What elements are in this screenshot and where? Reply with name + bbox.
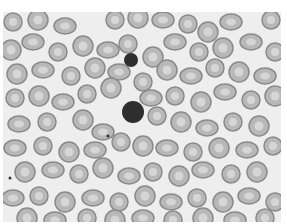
red-blood-cell bbox=[110, 193, 128, 211]
red-blood-cell bbox=[106, 12, 124, 29]
red-blood-cell bbox=[84, 142, 106, 158]
red-blood-cell bbox=[28, 12, 48, 30]
stained-cell bbox=[122, 101, 144, 123]
red-blood-cell bbox=[30, 187, 48, 205]
red-blood-cell bbox=[184, 143, 202, 161]
red-blood-cell bbox=[164, 211, 182, 222]
red-blood-cell bbox=[134, 73, 152, 91]
red-blood-cell bbox=[85, 58, 105, 78]
red-blood-cell bbox=[112, 133, 130, 151]
red-blood-cell bbox=[179, 15, 197, 33]
red-blood-cell bbox=[198, 22, 218, 42]
stained-cell bbox=[124, 53, 138, 67]
red-blood-cell bbox=[188, 189, 206, 207]
red-blood-cell bbox=[152, 12, 174, 28]
red-blood-cell bbox=[3, 190, 24, 206]
red-blood-cell bbox=[4, 140, 26, 156]
red-blood-cell bbox=[55, 192, 75, 212]
red-blood-cell bbox=[132, 210, 154, 222]
red-blood-cell bbox=[213, 38, 233, 58]
red-blood-cell bbox=[240, 34, 262, 50]
red-blood-cell bbox=[22, 34, 44, 50]
red-blood-cell bbox=[119, 35, 137, 53]
red-blood-cell bbox=[34, 137, 52, 155]
red-blood-cell bbox=[148, 107, 166, 125]
red-blood-cell bbox=[105, 210, 125, 222]
red-blood-cell bbox=[262, 12, 280, 29]
red-blood-cell bbox=[238, 188, 260, 204]
red-blood-cell bbox=[229, 62, 249, 82]
red-blood-cell bbox=[190, 43, 208, 61]
red-blood-cell bbox=[97, 42, 119, 58]
red-blood-cell bbox=[42, 162, 64, 178]
red-blood-cell bbox=[93, 158, 113, 178]
red-blood-cell bbox=[73, 110, 93, 130]
red-blood-cell bbox=[191, 92, 211, 112]
red-blood-cell bbox=[193, 208, 213, 222]
red-blood-cell bbox=[206, 59, 224, 77]
red-blood-cell bbox=[164, 34, 186, 50]
red-blood-cell bbox=[224, 113, 242, 131]
red-blood-cell bbox=[236, 142, 258, 158]
red-blood-cell bbox=[52, 94, 74, 110]
red-blood-cell bbox=[265, 86, 281, 106]
red-blood-cell bbox=[118, 168, 140, 184]
red-blood-cell bbox=[266, 43, 281, 61]
red-blood-cell bbox=[62, 67, 80, 85]
red-blood-cell bbox=[73, 36, 93, 56]
red-blood-cell bbox=[224, 212, 246, 222]
red-blood-cell bbox=[214, 84, 236, 100]
red-blood-cell bbox=[166, 87, 184, 105]
red-blood-cell bbox=[78, 85, 96, 103]
red-blood-cell bbox=[254, 68, 276, 84]
red-blood-cell bbox=[135, 186, 155, 206]
red-blood-cell bbox=[101, 78, 121, 98]
red-blood-cell bbox=[209, 138, 229, 158]
red-blood-cell bbox=[59, 142, 79, 162]
red-blood-cell bbox=[70, 165, 88, 183]
red-blood-cell bbox=[8, 116, 30, 132]
red-blood-cell bbox=[92, 124, 114, 140]
red-blood-cell bbox=[4, 13, 22, 31]
red-blood-cell bbox=[49, 43, 67, 61]
micrograph-image bbox=[3, 12, 281, 222]
speck bbox=[107, 135, 110, 138]
red-blood-cell bbox=[7, 64, 27, 84]
red-blood-cell bbox=[17, 208, 37, 222]
red-blood-cell bbox=[220, 14, 242, 30]
red-blood-cell bbox=[242, 91, 260, 109]
red-blood-cell bbox=[38, 113, 56, 131]
red-blood-cell bbox=[196, 120, 218, 136]
red-blood-cell bbox=[3, 40, 21, 60]
red-blood-cell bbox=[192, 162, 214, 178]
red-blood-cell bbox=[266, 193, 281, 211]
red-blood-cell bbox=[15, 162, 35, 182]
red-blood-cell bbox=[6, 89, 24, 107]
red-blood-cell bbox=[144, 163, 162, 181]
red-blood-cell bbox=[160, 194, 182, 210]
red-blood-cell bbox=[82, 190, 104, 206]
red-blood-cell bbox=[213, 192, 233, 212]
red-blood-cell bbox=[54, 18, 76, 34]
red-blood-cell bbox=[156, 140, 178, 156]
red-blood-cell bbox=[249, 116, 269, 136]
speck bbox=[9, 177, 12, 180]
red-blood-cell bbox=[157, 60, 177, 80]
red-blood-cell bbox=[140, 90, 162, 106]
red-blood-cell bbox=[128, 12, 148, 28]
red-blood-cell bbox=[78, 209, 96, 222]
red-blood-cell bbox=[171, 112, 191, 132]
red-blood-cell bbox=[256, 209, 274, 222]
red-blood-cell bbox=[180, 68, 202, 84]
red-blood-cell bbox=[264, 137, 281, 155]
blood-cells-canvas bbox=[3, 12, 281, 222]
red-blood-cell bbox=[29, 86, 49, 106]
red-blood-cell bbox=[222, 165, 240, 183]
red-blood-cell bbox=[32, 62, 54, 78]
red-blood-cell bbox=[133, 136, 153, 156]
red-blood-cell bbox=[44, 212, 66, 222]
red-blood-cell bbox=[169, 166, 189, 186]
red-blood-cell bbox=[247, 162, 267, 182]
